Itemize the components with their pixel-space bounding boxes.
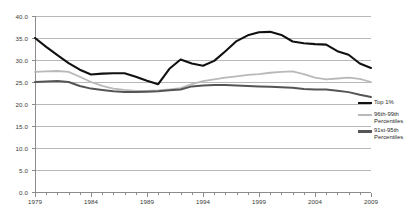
legend-item-label: 96th-99th Percentiles [374, 111, 411, 124]
series-line [35, 32, 371, 84]
legend-swatch-line-icon [358, 130, 372, 132]
legend-swatch-line-icon [358, 114, 372, 116]
line-chart: 0.05.010.015.020.025.030.035.040.0 19791… [0, 0, 411, 221]
legend-item[interactable]: Top 1% [358, 99, 411, 108]
legend-item[interactable]: 91st-95th Percentiles [358, 127, 411, 140]
legend-item[interactable]: 96th-99th Percentiles [358, 111, 411, 124]
chart-legend: Top 1%96th-99th Percentiles91st-95th Per… [358, 99, 411, 143]
legend-item-label: 91st-95th Percentiles [374, 127, 411, 140]
plot-area [0, 0, 411, 221]
legend-swatch-line-icon [358, 102, 372, 104]
legend-item-label: Top 1% [374, 99, 411, 106]
series-line [35, 81, 371, 97]
